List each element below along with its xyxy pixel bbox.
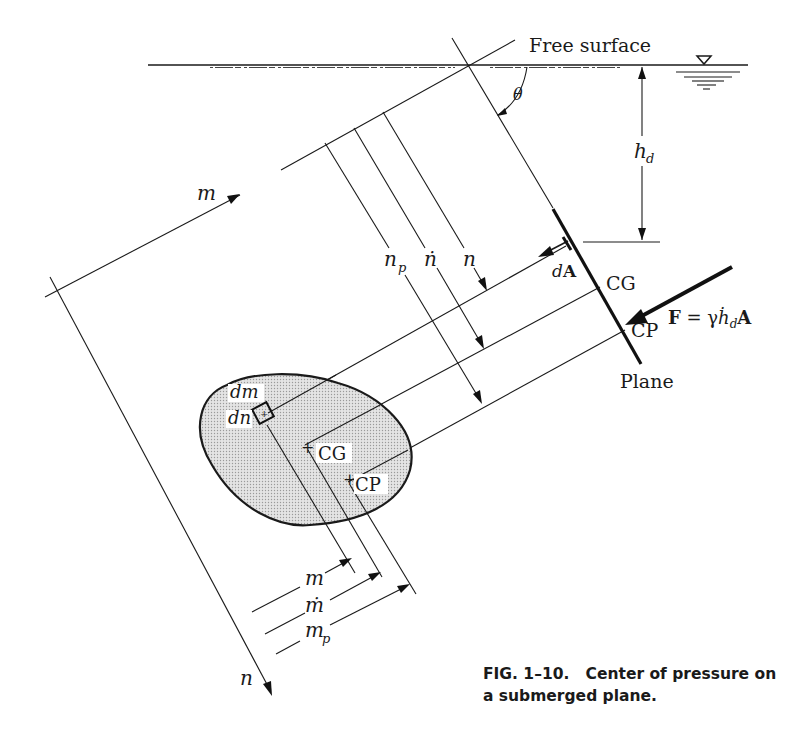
h-d-dimension: h d [583,67,660,242]
n-bar-label: ṅ [424,247,437,271]
cp-area-label: CP [355,474,381,495]
plane-label: Plane [620,370,674,392]
n-p-subscript: p [398,260,407,275]
n-label: n [463,247,476,271]
water-level-symbol-icon [676,56,740,89]
cg-area-label: CG [318,443,346,464]
dn-label: dn [228,407,251,428]
dm-label: dm [230,381,259,402]
force-equation: F = γḣdA [668,306,752,331]
svg-text:d: d [646,151,654,166]
plane-extension-line [452,38,553,208]
m-dim-label: m [305,566,324,590]
dA-label-d: d [552,261,563,281]
svg-text:n: n [240,666,253,690]
svg-text:+: + [260,408,268,419]
theta-label: θ [513,85,523,104]
cg-cross: + [301,438,314,457]
inclined-top-line [281,40,515,170]
n-p-label: n [384,247,397,271]
figure-caption-line1: FIG. 1–10. Center of pressure on [483,665,776,683]
m-bar-dim-label: ṁ [305,593,324,617]
svg-text:h: h [634,139,647,163]
dA-label-A: A [562,261,577,281]
cg-plane-label: CG [606,272,636,294]
m-dimensions [252,558,410,654]
figure-caption-line2: a submerged plane. [483,687,657,705]
svg-text:m: m [197,181,216,205]
free-surface [148,56,748,89]
free-surface-label: Free surface [529,34,651,56]
center-of-pressure-diagram: Free surface θ h d m n [0,0,811,738]
m-axis: m [45,181,240,297]
m-p-dim-subscript: p [322,631,331,646]
